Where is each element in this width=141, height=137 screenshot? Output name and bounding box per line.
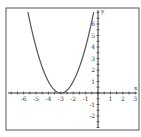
y-tick-label: 2 — [91, 66, 95, 73]
y-axis-label: y — [100, 7, 105, 15]
x-tick-label: -3 — [58, 95, 64, 102]
y-tick-label: 4 — [91, 43, 95, 50]
y-tick-label: 5 — [91, 32, 95, 39]
plot-frame — [6, 8, 139, 130]
x-tick-label: -1 — [83, 95, 89, 102]
x-tick-label: -2 — [70, 95, 76, 102]
x-tick-label: -6 — [21, 95, 27, 102]
y-tick-label: 3 — [91, 55, 95, 62]
y-tick-label: -2 — [89, 112, 95, 119]
x-tick-label: 3 — [133, 95, 137, 102]
x-tick-label: 2 — [121, 95, 125, 102]
y-tick-label: 1 — [91, 78, 95, 85]
x-tick-label: -4 — [45, 95, 51, 102]
x-tick-label: -5 — [33, 95, 39, 102]
parabola-chart: -6-5-4-3-2-1123-2-1123456 x y — [0, 0, 141, 137]
y-tick-label: -1 — [89, 101, 95, 108]
x-tick-label: 1 — [108, 95, 112, 102]
